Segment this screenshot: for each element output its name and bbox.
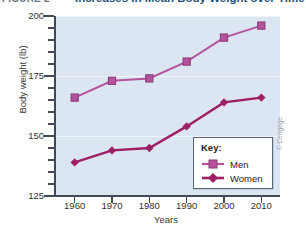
y-tick-label-150: 150 bbox=[4, 130, 44, 141]
x-axis-label: Years bbox=[56, 214, 276, 225]
y-tick-130 bbox=[48, 183, 54, 185]
data-point-men-2000[interactable] bbox=[220, 34, 227, 41]
y-tick-160 bbox=[48, 111, 54, 113]
data-point-men-2010[interactable] bbox=[258, 22, 265, 29]
figure-title-strip: FIGURE 2 Increases in Mean Body Weight o… bbox=[0, 0, 306, 9]
figure-root: FIGURE 2 Increases in Mean Body Weight o… bbox=[0, 0, 306, 233]
y-tick-140 bbox=[48, 159, 54, 161]
y-tick-label-125: 125 bbox=[4, 190, 44, 201]
legend-item-women[interactable]: Women bbox=[201, 171, 263, 185]
data-point-men-1980[interactable] bbox=[146, 75, 153, 82]
data-point-men-1990[interactable] bbox=[183, 58, 190, 65]
legend-swatch-women-icon bbox=[201, 172, 225, 184]
data-point-women-1960[interactable] bbox=[70, 158, 78, 166]
copyright-notice: © Cengage bbox=[276, 90, 283, 150]
legend-label-women: Women bbox=[230, 173, 263, 184]
y-tick-135 bbox=[48, 171, 54, 173]
y-tick-185 bbox=[48, 51, 54, 53]
y-tick-label-175: 175 bbox=[4, 70, 44, 81]
figure-title: Increases in Mean Body Weight over Time bbox=[75, 0, 305, 4]
y-tick-190 bbox=[48, 39, 54, 41]
legend-swatch-men-icon bbox=[201, 158, 225, 170]
data-point-women-2010[interactable] bbox=[257, 93, 265, 101]
legend-item-men[interactable]: Men bbox=[201, 157, 248, 171]
y-tick-170 bbox=[48, 87, 54, 89]
y-tick-150 bbox=[44, 135, 54, 137]
legend-box: Key: Men Women bbox=[193, 137, 273, 189]
y-tick-label-200: 200 bbox=[4, 10, 44, 21]
y-tick-180 bbox=[48, 63, 54, 65]
figure-number: FIGURE 2 bbox=[2, 0, 50, 4]
y-tick-125 bbox=[44, 195, 54, 197]
y-tick-155 bbox=[48, 123, 54, 125]
y-tick-195 bbox=[48, 27, 54, 29]
data-point-men-1960[interactable] bbox=[71, 94, 78, 101]
x-tick-label-2010: 2010 bbox=[238, 200, 284, 211]
legend-title: Key: bbox=[201, 142, 222, 153]
legend-label-men: Men bbox=[230, 159, 248, 170]
y-tick-165 bbox=[48, 99, 54, 101]
y-tick-175 bbox=[44, 75, 54, 77]
y-tick-200 bbox=[44, 15, 54, 17]
y-tick-145 bbox=[48, 147, 54, 149]
data-point-women-1970[interactable] bbox=[108, 146, 116, 154]
series-line-men bbox=[75, 26, 262, 98]
data-point-men-1970[interactable] bbox=[108, 77, 115, 84]
